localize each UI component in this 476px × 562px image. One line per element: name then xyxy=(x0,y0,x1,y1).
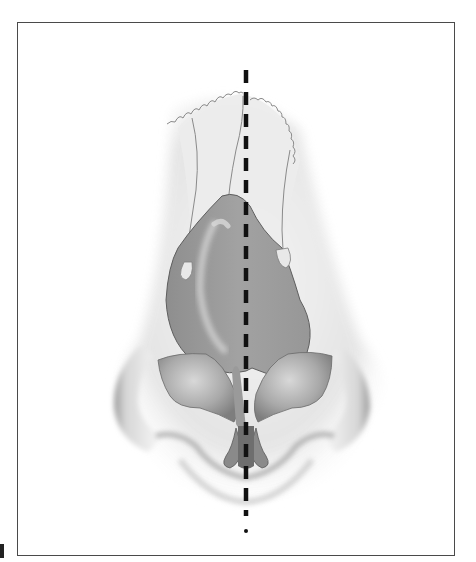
figure-label-fragment xyxy=(0,544,4,558)
nose-anatomy-illustration xyxy=(0,0,476,562)
